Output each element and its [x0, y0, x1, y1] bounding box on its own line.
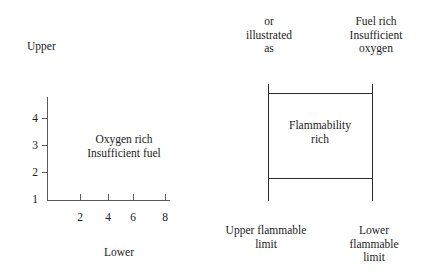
left-panel-upper-label: Upper	[27, 40, 56, 54]
left-panel-y-axis	[47, 97, 48, 201]
flammable-band-bottom-line	[268, 178, 373, 179]
flammability-diagram-figure: Upper 4 3 2 1 2 4 6 8 Oxygen rich Insuff…	[0, 0, 445, 276]
y-tick-label-1: 1	[24, 193, 38, 205]
flammability-band-label: Flammability rich	[289, 119, 351, 146]
x-tick-label-4: 4	[100, 211, 116, 223]
right-panel-header-right: Fuel rich Insufficient oxygen	[350, 15, 403, 56]
y-tick-2	[42, 172, 48, 173]
left-panel-lower-label: Lower	[104, 246, 134, 260]
right-panel-header-left: or illustrated as	[246, 15, 292, 56]
left-panel-x-axis	[47, 200, 170, 201]
x-tick-8	[165, 194, 166, 200]
x-tick-4	[108, 194, 109, 200]
x-tick-6	[133, 194, 134, 200]
right-panel-footer-right: Lower flammable limit	[339, 224, 410, 265]
x-tick-label-8: 8	[157, 211, 173, 223]
y-tick-3	[42, 145, 48, 146]
x-tick-label-6: 6	[125, 211, 141, 223]
y-tick-4	[42, 118, 48, 119]
left-panel-region-label: Oxygen rich Insufficient fuel	[87, 133, 161, 160]
y-tick-label-3: 3	[24, 139, 38, 151]
x-tick-label-2: 2	[72, 211, 88, 223]
right-panel-footer-left: Upper flammable limit	[226, 224, 307, 251]
flammable-band-top-line	[268, 93, 373, 94]
x-tick-2	[80, 194, 81, 200]
y-tick-label-4: 4	[24, 112, 38, 124]
y-tick-label-2: 2	[24, 166, 38, 178]
upper-flammable-limit-line	[268, 84, 269, 201]
lower-flammable-limit-line	[372, 84, 373, 201]
